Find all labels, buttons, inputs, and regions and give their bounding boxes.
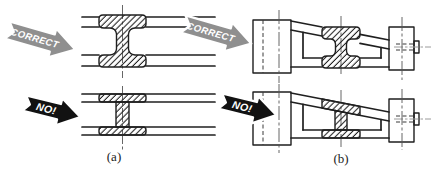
panel-b-correct-drawing bbox=[253, 10, 431, 83]
panel-b-wrong-drawing bbox=[253, 84, 431, 153]
right-boss bbox=[389, 27, 414, 70]
panel-b-label: (b) bbox=[333, 151, 348, 166]
panel-a-wrong-drawing bbox=[82, 86, 215, 150]
no-arrow-b: NO! bbox=[217, 87, 280, 128]
no-arrow-a: NO! bbox=[21, 89, 84, 130]
section-web-wrong bbox=[116, 102, 129, 127]
conventions-diagram: CORRECT NO! CORRECT NO! (a) (b) bbox=[0, 0, 432, 174]
panel-a-label: (a) bbox=[107, 149, 121, 164]
section-top-flange-wrong bbox=[99, 94, 146, 102]
section-bottom-flange-wrong bbox=[322, 130, 360, 138]
section-bottom-flange-wrong bbox=[99, 127, 146, 135]
section-web-wrong bbox=[335, 111, 347, 131]
correct-arrow-a: CORRECT bbox=[3, 16, 80, 64]
correct-arrow-b: CORRECT bbox=[179, 10, 256, 58]
figure-canvas: CORRECT NO! CORRECT NO! (a) (b) bbox=[0, 0, 432, 174]
revolved-section-true-shape bbox=[322, 27, 360, 68]
left-boss bbox=[253, 20, 291, 73]
right-boss bbox=[389, 99, 414, 142]
panel-a-correct-drawing bbox=[82, 5, 215, 78]
revolved-section-true-shape bbox=[99, 15, 146, 67]
